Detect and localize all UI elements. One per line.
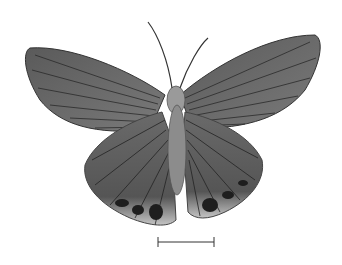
butterfly-specimen-image bbox=[0, 0, 342, 265]
right-hindwing bbox=[183, 112, 263, 218]
scale-bar bbox=[158, 237, 214, 247]
right-forewing bbox=[180, 35, 320, 128]
